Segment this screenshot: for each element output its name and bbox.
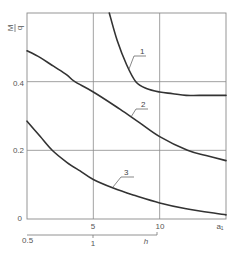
x-tick-10: 10 (156, 222, 165, 231)
y-tick-0.2: 0.2 (13, 146, 25, 155)
curves (27, 13, 226, 215)
y-label-denominator: q (15, 26, 24, 30)
curve-label-2: 2 (131, 100, 148, 117)
x-tick-5: 5 (91, 222, 96, 231)
x-axis-label: a₁ (216, 222, 223, 231)
h-tick-1: 1 (91, 239, 96, 248)
y-label-numerator: M (6, 24, 15, 31)
h-axis-label: h (144, 237, 149, 246)
gridlines (27, 13, 226, 219)
svg-text:1: 1 (140, 47, 145, 56)
curve-2 (27, 51, 226, 161)
y-tick-0: 0 (18, 214, 23, 223)
curve-label-3: 3 (113, 168, 134, 187)
y-axis-label: M q (6, 24, 24, 32)
curve-1 (109, 13, 226, 96)
plot-frame (27, 13, 226, 219)
svg-text:2: 2 (141, 100, 146, 109)
svg-text:3: 3 (124, 168, 129, 177)
h-tick-0.5: 0.5 (22, 236, 34, 245)
curve-label-1: 1 (129, 47, 146, 69)
secondary-axis-h: 0.5 1 h (22, 232, 157, 248)
chart: M q 0 0.2 0.4 5 10 a₁ 0.5 1 h 1 2 3 (0, 0, 239, 254)
y-tick-0.4: 0.4 (13, 79, 25, 88)
